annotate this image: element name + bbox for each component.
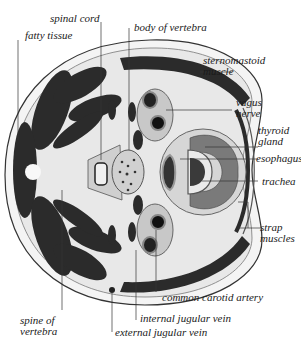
label-common-carotid-artery: common carotid artery bbox=[162, 292, 263, 303]
label-fatty-tissue: fatty tissue bbox=[25, 30, 72, 41]
carotid-sheath-lower bbox=[137, 204, 173, 256]
label-spinal-cord: spinal cord bbox=[50, 13, 99, 24]
nuchal-ligament bbox=[25, 164, 41, 180]
neck-cross-section-diagram: spinal cord fatty tissue body of vertebr… bbox=[0, 0, 301, 339]
external-jugular-vein bbox=[109, 287, 115, 293]
internal-jugular-vein-lower bbox=[143, 237, 157, 253]
label-esophagus: esophagus bbox=[256, 153, 301, 164]
anatomy-illustration bbox=[0, 0, 301, 339]
vertebral-body bbox=[112, 150, 144, 194]
esophagus bbox=[163, 155, 176, 190]
label-trachea: trachea bbox=[262, 176, 296, 187]
label-spine-of-vertebra: spine ofvertebra bbox=[20, 315, 57, 337]
common-carotid-artery-upper bbox=[151, 116, 165, 130]
label-vagus-nerve: vagusnerve bbox=[236, 97, 262, 119]
label-internal-jugular-vein: internal jugular vein bbox=[140, 313, 231, 324]
common-carotid-artery-lower bbox=[151, 215, 165, 229]
label-strap-muscles: strapmuscles bbox=[260, 222, 295, 244]
label-body-of-vertebra: body of vertebra bbox=[134, 22, 207, 33]
label-external-jugular-vein: external jugular vein bbox=[115, 327, 207, 338]
label-thyroid-gland: thyroidgland bbox=[258, 125, 289, 147]
internal-jugular-vein-upper bbox=[143, 92, 157, 108]
spinal-cord bbox=[95, 163, 107, 185]
label-sternomastoid-muscle: sternomastoidmuscle bbox=[203, 55, 265, 77]
carotid-sheath-upper bbox=[137, 89, 173, 141]
